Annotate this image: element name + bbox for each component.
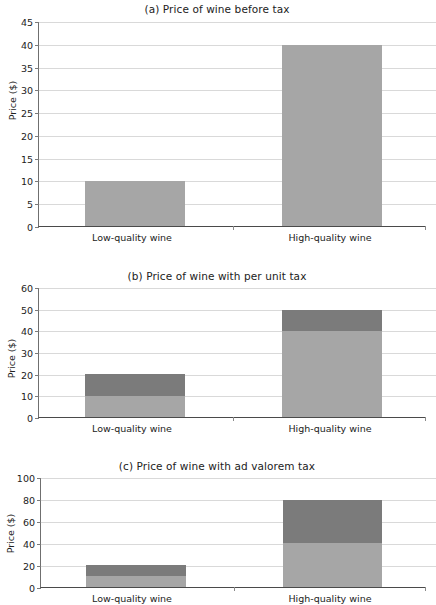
gridline: [39, 22, 436, 23]
bar-segment-base-price: [85, 181, 185, 226]
y-tick-mark: [35, 204, 39, 205]
y-tick-label: 40: [21, 39, 33, 50]
bar-b-low-quality: [85, 374, 185, 417]
y-tick-mark: [37, 522, 41, 523]
x-tick-label-a-0: Low-quality wine: [92, 232, 172, 243]
y-tick-mark: [37, 544, 41, 545]
y-axis-label-c: Price ($): [5, 504, 16, 564]
y-tick-label: 30: [21, 348, 33, 359]
y-tick-mark: [35, 331, 39, 332]
bar-segment-tax: [85, 374, 185, 396]
y-tick-mark: [35, 396, 39, 397]
plot-area-c: 020406080100: [40, 478, 426, 588]
y-tick-label: 25: [21, 108, 33, 119]
y-tick-mark: [35, 375, 39, 376]
x-tick-label-c-1: High-quality wine: [288, 593, 371, 604]
y-tick-label: 45: [21, 17, 33, 28]
x-tick-label-b-1: High-quality wine: [288, 423, 371, 434]
y-tick-label: 20: [21, 369, 33, 380]
y-tick-mark: [37, 500, 41, 501]
bar-segment-base-price: [86, 576, 185, 587]
y-tick-mark: [37, 588, 41, 589]
y-tick-label: 35: [21, 62, 33, 73]
y-tick-label: 20: [21, 130, 33, 141]
y-tick-label: 5: [27, 199, 33, 210]
x-tick-label-c-0: Low-quality wine: [92, 593, 172, 604]
plot-area-a: 051015202530354045: [38, 22, 426, 227]
bar-c-high-quality: [283, 500, 382, 587]
x-tick-label-b-0: Low-quality wine: [92, 423, 172, 434]
bar-segment-base-price: [85, 396, 185, 418]
y-tick-mark: [35, 45, 39, 46]
y-tick-label: 50: [21, 304, 33, 315]
chart-panel-a: (a) Price of wine before tax Price ($) 0…: [0, 0, 434, 250]
y-tick-mark: [35, 68, 39, 69]
x-tick-mark: [233, 417, 234, 421]
y-axis-label-b: Price ($): [6, 329, 17, 389]
bar-c-low-quality: [86, 565, 185, 587]
y-tick-label: 15: [21, 153, 33, 164]
y-tick-mark: [35, 181, 39, 182]
y-tick-label: 40: [23, 539, 35, 550]
x-tick-mark: [233, 226, 234, 230]
y-tick-mark: [35, 136, 39, 137]
chart-title-b: (b) Price of wine with per unit tax: [0, 270, 434, 282]
y-tick-mark: [35, 353, 39, 354]
x-axis-end-tick: [425, 417, 426, 421]
bar-segment-tax: [283, 500, 382, 544]
bar-a-high-quality: [282, 45, 382, 226]
y-tick-label: 0: [27, 413, 33, 424]
y-tick-label: 60: [21, 283, 33, 294]
x-axis-end-tick: [425, 226, 426, 230]
y-tick-mark: [37, 566, 41, 567]
x-tick-mark: [234, 587, 235, 591]
y-tick-label: 10: [21, 176, 33, 187]
plot-area-b: 0102030405060: [38, 288, 426, 418]
y-tick-label: 100: [17, 473, 35, 484]
gridline: [41, 478, 436, 479]
y-tick-label: 80: [23, 495, 35, 506]
bar-segment-tax: [282, 310, 382, 332]
gridline: [39, 288, 436, 289]
y-tick-label: 0: [29, 583, 35, 594]
chart-title-c: (c) Price of wine with ad valorem tax: [0, 460, 434, 472]
bar-a-low-quality: [85, 181, 185, 226]
y-tick-mark: [35, 22, 39, 23]
bar-segment-base-price: [282, 45, 382, 226]
y-axis-label-a: Price ($): [7, 71, 18, 131]
y-tick-mark: [35, 113, 39, 114]
chart-title-a: (a) Price of wine before tax: [0, 3, 434, 15]
y-tick-label: 10: [21, 391, 33, 402]
y-tick-label: 20: [23, 561, 35, 572]
chart-panel-b: (b) Price of wine with per unit tax Pric…: [0, 250, 434, 442]
y-tick-mark: [35, 418, 39, 419]
chart-panel-c: (c) Price of wine with ad valorem tax Pr…: [0, 442, 434, 605]
bar-segment-base-price: [282, 331, 382, 417]
y-tick-mark: [35, 90, 39, 91]
bar-segment-tax: [86, 565, 185, 576]
y-tick-label: 60: [23, 517, 35, 528]
y-tick-mark: [35, 310, 39, 311]
bar-b-high-quality: [282, 310, 382, 418]
y-tick-mark: [35, 159, 39, 160]
y-tick-label: 30: [21, 85, 33, 96]
bar-segment-base-price: [283, 543, 382, 587]
y-tick-label: 40: [21, 326, 33, 337]
y-tick-label: 0: [27, 222, 33, 233]
x-axis-end-tick: [425, 587, 426, 591]
x-tick-label-a-1: High-quality wine: [288, 232, 371, 243]
y-tick-mark: [37, 478, 41, 479]
y-tick-mark: [35, 288, 39, 289]
y-tick-mark: [35, 227, 39, 228]
